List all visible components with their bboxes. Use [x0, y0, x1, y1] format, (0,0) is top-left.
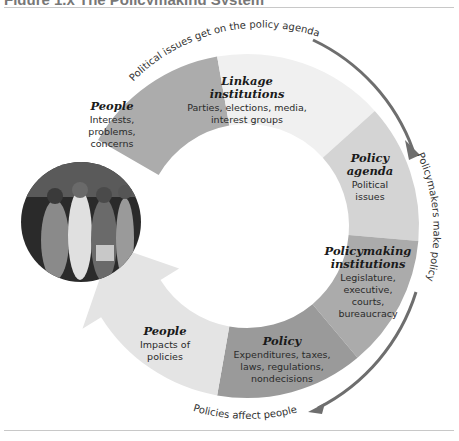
segment-text-agenda: issues [355, 191, 384, 202]
segment-text-people-input: problems, [88, 126, 135, 137]
crowd-photo [21, 162, 141, 282]
segment-title-policymaking: institutions [331, 257, 406, 271]
segment-title-agenda: agenda [347, 164, 394, 178]
arc-label-bottom-text: Policies affect people [192, 402, 298, 421]
segment-title-linkage: Linkage [220, 74, 273, 88]
arrowhead-policy [308, 403, 325, 414]
segment-text-linkage: interest groups [211, 114, 283, 125]
arc-label-bottom: Policies affect people [192, 402, 298, 421]
segment-text-people-input: Interests, [90, 114, 135, 125]
segment-title-people-input: People [89, 99, 133, 113]
segment-text-policymaking: Legislature, [340, 272, 395, 283]
policymaking-system-diagram: PeopleInterests,problems,concernsLinkage… [0, 0, 459, 441]
segment-text-people-output: Impacts of [140, 339, 191, 350]
segment-title-agenda: Policy [350, 151, 391, 165]
segment-text-policymaking: courts, [352, 296, 385, 307]
segment-text-linkage: Parties, elections, media, [187, 102, 307, 113]
arc-label-right: Policymakers make policy [415, 151, 442, 283]
segment-title-policymaking: Policymaking [324, 244, 412, 258]
segment-text-policy: Expenditures, taxes, [233, 349, 330, 360]
segment-text-people-input: concerns [91, 138, 134, 149]
segment-text-policymaking: bureaucracy [338, 308, 398, 319]
arc-label-right-text: Policymakers make policy [415, 151, 442, 283]
segment-text-policy: nondecisions [251, 373, 313, 384]
segment-text-people-output: policies [147, 351, 183, 362]
segment-text-policymaking: executive, [344, 284, 393, 295]
segment-text-agenda: Political [352, 179, 389, 190]
segment-text-policy: laws, regulations, [240, 361, 323, 372]
segment-title-people-output: People [142, 324, 186, 338]
segment-title-policy: Policy [262, 334, 303, 348]
segment-title-linkage: institutions [210, 87, 285, 101]
